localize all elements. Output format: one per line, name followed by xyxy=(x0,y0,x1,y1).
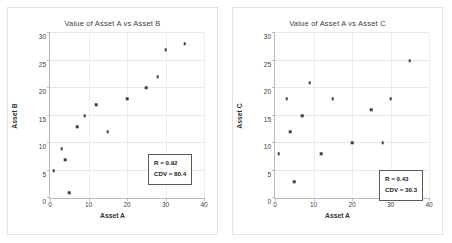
correlation-value: R = 0.43 xyxy=(385,174,417,185)
y-tick-mark xyxy=(272,170,275,171)
gridline-vertical xyxy=(352,33,353,198)
data-point xyxy=(76,125,79,128)
y-tick-mark xyxy=(272,115,275,116)
data-point xyxy=(289,131,292,134)
x-axis-label: Asset A xyxy=(233,212,442,219)
y-tick-mark xyxy=(272,32,275,33)
gridline-vertical xyxy=(127,33,128,198)
x-tick-label: 10 xyxy=(310,201,317,208)
chart-card-asset-b: Value of Asset A vs Asset B 051015202530… xyxy=(7,7,218,235)
gridline-vertical xyxy=(204,33,205,198)
x-tick-label: 10 xyxy=(85,201,92,208)
x-tick-label: 0 xyxy=(48,201,52,208)
gridline-vertical xyxy=(314,33,315,198)
data-point xyxy=(382,142,385,145)
gridline-vertical xyxy=(89,33,90,198)
chart-title: Value of Asset A vs Asset C xyxy=(233,19,442,28)
data-point xyxy=(278,153,281,156)
y-tick-mark xyxy=(272,87,275,88)
x-axis-label: Asset A xyxy=(8,212,217,219)
y-axis-label: Asset B xyxy=(11,103,18,128)
data-point xyxy=(331,98,334,101)
data-point xyxy=(83,114,86,117)
data-point xyxy=(293,180,296,183)
data-point xyxy=(389,98,392,101)
chart-title: Value of Asset A vs Asset B xyxy=(8,19,217,28)
y-tick-mark xyxy=(47,87,50,88)
y-tick-mark xyxy=(272,60,275,61)
data-point xyxy=(157,76,160,79)
data-point xyxy=(320,153,323,156)
data-point xyxy=(95,103,98,106)
stats-annotation-box: R = 0.43 CDV = 30.3 xyxy=(379,170,423,201)
gridline-vertical xyxy=(429,33,430,198)
x-tick-label: 40 xyxy=(200,201,207,208)
correlation-value: R = 0.92 xyxy=(154,158,186,169)
x-tick-label: 30 xyxy=(162,201,169,208)
cdv-value: CDV = 30.3 xyxy=(385,185,417,196)
chart-card-asset-c: Value of Asset A vs Asset C 051015202530… xyxy=(232,7,443,235)
y-tick-mark xyxy=(47,115,50,116)
y-tick-mark xyxy=(272,142,275,143)
y-tick-mark xyxy=(47,170,50,171)
data-point xyxy=(53,169,56,172)
data-point xyxy=(408,59,411,62)
data-point xyxy=(68,191,71,194)
scatter-plot-figure: Value of Asset A vs Asset B 051015202530… xyxy=(0,0,452,243)
data-point xyxy=(64,158,67,161)
y-axis-label: Asset C xyxy=(236,103,243,128)
data-point xyxy=(60,147,63,150)
x-tick-label: 30 xyxy=(387,201,394,208)
data-point xyxy=(370,109,373,112)
x-tick-label: 40 xyxy=(425,201,432,208)
stats-annotation-box: R = 0.92 CDV = 80.4 xyxy=(148,154,192,185)
data-point xyxy=(351,142,354,145)
data-point xyxy=(301,114,304,117)
y-tick-mark xyxy=(47,32,50,33)
data-point xyxy=(145,87,148,90)
data-point xyxy=(106,131,109,134)
data-point xyxy=(164,48,167,51)
x-tick-label: 20 xyxy=(123,201,130,208)
y-tick-mark xyxy=(47,60,50,61)
data-point xyxy=(126,98,129,101)
data-point xyxy=(308,81,311,84)
cdv-value: CDV = 80.4 xyxy=(154,169,186,180)
x-tick-label: 0 xyxy=(273,201,277,208)
x-tick-label: 20 xyxy=(348,201,355,208)
data-point xyxy=(183,43,186,46)
data-point xyxy=(285,98,288,101)
y-tick-mark xyxy=(47,142,50,143)
